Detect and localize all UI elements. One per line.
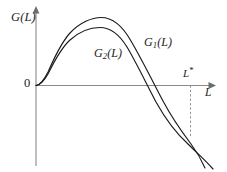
plot-canvas: [0, 0, 227, 172]
curve-g1-label-arg: (L): [157, 35, 172, 49]
graph-figure: G(L) 0 G1(L) G2(L) L* L: [0, 0, 227, 172]
curve-g2-label-arg: (L): [107, 46, 122, 60]
curve-g2-label-base: G: [94, 46, 103, 60]
x-axis-label: L: [205, 87, 212, 99]
curve-g1: [36, 18, 205, 169]
curve-g2-label: G2(L): [94, 47, 122, 61]
l-star-label-asterisk: *: [189, 65, 194, 75]
l-star-label: L*: [183, 66, 194, 79]
curve-g1-label-base: G: [144, 35, 153, 49]
origin-label: 0: [24, 77, 30, 90]
curve-g2: [36, 28, 213, 170]
curve-g1-label: G1(L): [144, 36, 172, 50]
y-axis-label: G(L): [11, 11, 36, 24]
